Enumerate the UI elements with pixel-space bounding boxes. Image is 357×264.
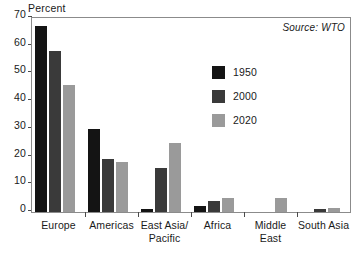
x-axis-label-line: Americas	[89, 219, 134, 231]
x-axis-label-line: Africa	[204, 219, 231, 231]
x-axis-tick	[297, 212, 298, 217]
x-axis-labels: EuropeAmericasEast Asia/PacificAfricaMid…	[32, 219, 352, 261]
bar	[169, 143, 181, 212]
source-note: Source: WTO	[282, 22, 345, 33]
bar	[116, 162, 128, 212]
y-tick-label: 40	[14, 92, 26, 103]
legend-label: 2020	[233, 114, 257, 126]
bar	[102, 159, 114, 212]
legend-label: 1950	[233, 66, 257, 78]
bar-group	[88, 18, 128, 212]
legend-swatch	[212, 90, 225, 103]
x-axis-tick	[244, 212, 245, 217]
legend-item: 2020	[212, 108, 292, 132]
bar	[222, 198, 234, 212]
y-tick-label: 0	[20, 203, 26, 214]
y-tick-label: 30	[14, 120, 26, 131]
x-axis-label: South Asia	[288, 219, 357, 232]
bars-layer	[32, 18, 350, 212]
x-axis-tick	[138, 212, 139, 217]
x-axis-label-line: Middle	[255, 219, 287, 231]
y-axis-unit-label: Percent	[28, 2, 66, 14]
y-axis: 010203040506070	[0, 17, 32, 213]
bar-chart: Percent 010203040506070 EuropeAmericasEa…	[0, 0, 357, 264]
legend-item: 2000	[212, 84, 292, 108]
y-tick-label: 70	[14, 9, 26, 20]
legend-item: 1950	[212, 60, 292, 84]
x-axis-tick	[191, 212, 192, 217]
x-axis-label-line: East	[235, 232, 306, 245]
bar	[49, 51, 61, 212]
bar	[35, 26, 47, 212]
bar	[275, 198, 287, 212]
y-tick-label: 50	[14, 64, 26, 75]
bar	[155, 168, 167, 212]
legend-swatch	[212, 114, 225, 127]
bar-group	[141, 18, 181, 212]
bar	[63, 85, 75, 212]
legend: 195020002020	[212, 60, 292, 132]
legend-label: 2000	[233, 90, 257, 102]
y-tick-label: 20	[14, 148, 26, 159]
bar-group	[300, 18, 340, 212]
y-tick-label: 10	[14, 175, 26, 186]
bar	[208, 201, 220, 212]
x-axis-label-line: Europe	[41, 219, 75, 231]
bar-group	[35, 18, 75, 212]
bar	[88, 129, 100, 212]
x-axis-ticks	[32, 212, 350, 217]
x-axis-label-line: South Asia	[298, 219, 349, 231]
x-axis-tick	[85, 212, 86, 217]
y-tick-label: 60	[14, 37, 26, 48]
legend-swatch	[212, 66, 225, 79]
x-axis-label-line: Pacific	[129, 232, 200, 245]
